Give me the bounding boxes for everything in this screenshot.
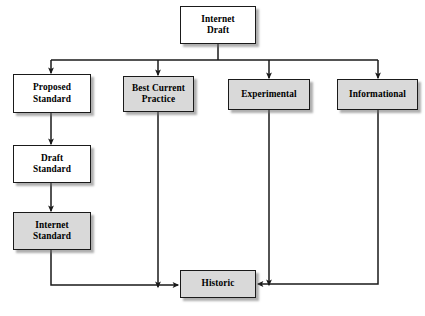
node-historic[interactable]: Historic (180, 270, 256, 298)
node-draft-standard-line1: Draft (41, 153, 63, 163)
node-informational[interactable]: Informational (337, 79, 418, 110)
node-internet-draft-line1: Internet (201, 14, 234, 24)
diagram-canvas: InternetDraft ProposedStandard Best Curr… (0, 0, 425, 316)
node-proposed-standard-label: ProposedStandard (31, 82, 73, 104)
node-proposed-standard-line2: Standard (33, 94, 71, 104)
node-draft-standard[interactable]: DraftStandard (13, 145, 91, 183)
node-historic-label: Historic (200, 278, 237, 289)
node-experimental[interactable]: Experimental (228, 79, 310, 110)
edge-informational-to-historic (258, 110, 378, 284)
node-draft-standard-label: DraftStandard (31, 153, 73, 175)
node-internet-draft[interactable]: InternetDraft (180, 6, 256, 44)
node-best-current-practice-line1: Best Current (132, 83, 185, 93)
edge-internet-standard-to-historic (51, 250, 178, 285)
node-internet-standard-line1: Internet (35, 220, 68, 230)
node-informational-label: Informational (347, 89, 408, 100)
node-internet-standard-line2: Standard (33, 231, 71, 241)
node-internet-draft-line2: Draft (207, 25, 229, 35)
node-proposed-standard-line1: Proposed (33, 82, 71, 92)
node-proposed-standard[interactable]: ProposedStandard (13, 74, 91, 113)
node-internet-standard[interactable]: InternetStandard (13, 212, 91, 250)
node-best-current-practice[interactable]: Best CurrentPractice (123, 76, 194, 112)
node-internet-standard-label: InternetStandard (31, 220, 73, 242)
node-internet-draft-label: InternetDraft (199, 14, 236, 36)
node-best-current-practice-label: Best CurrentPractice (130, 83, 187, 105)
node-best-current-practice-line2: Practice (142, 94, 175, 104)
node-experimental-label: Experimental (239, 89, 298, 100)
node-draft-standard-line2: Standard (33, 164, 71, 174)
